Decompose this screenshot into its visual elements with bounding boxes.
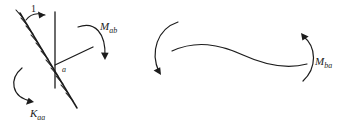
figure-linework <box>0 0 349 127</box>
moment-arc-mba <box>301 33 314 81</box>
moment-label-mab: Mab <box>100 21 117 35</box>
moment-label-mab-base: M <box>100 20 109 32</box>
inclined-member <box>55 47 93 65</box>
moment-label-mba: Mba <box>315 56 332 70</box>
right-panel-group <box>154 22 314 81</box>
deflected-member-curve <box>172 44 307 66</box>
moment-arc-kaa <box>14 68 34 105</box>
left-panel-group <box>14 10 109 108</box>
figure-canvas: 1 a Kaa Mab Mba <box>0 0 349 127</box>
unit-rotation-label: 1 <box>31 4 36 14</box>
moment-label-mba-base: M <box>315 55 324 67</box>
moment-label-mab-subscript: ab <box>109 26 117 35</box>
stiffness-label-kaa: Kaa <box>30 108 45 122</box>
node-label-a: a <box>62 66 66 74</box>
moment-label-mba-subscript: ba <box>324 61 332 70</box>
moment-arc-left-end <box>154 22 178 75</box>
stiffness-label-subscript: aa <box>37 113 45 122</box>
